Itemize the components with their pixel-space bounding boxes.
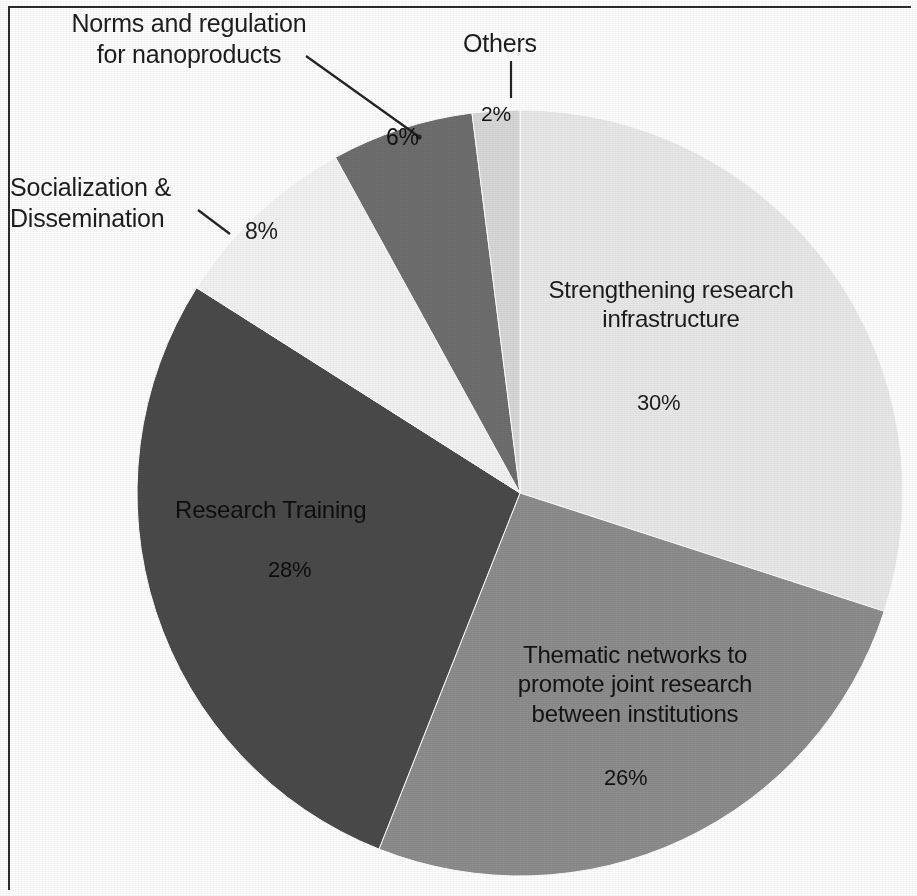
leader-line-socialization: [196, 206, 244, 242]
callout-label-norms-line1: Norms and regulation: [24, 8, 354, 39]
slice-percent-norms-and-regulation: 6%: [386, 123, 419, 151]
callout-label-social-line1: Socialization &: [10, 172, 240, 203]
slice-percent-others: 2%: [481, 101, 511, 127]
slice-percent-thematic-networks: 26%: [604, 765, 647, 792]
pie-chart-figure: Norms and regulation for nanoproducts Ot…: [0, 0, 917, 896]
slice-label-strengthening-line1: Strengthening research: [521, 275, 821, 304]
callout-label-others: Others: [463, 28, 537, 59]
slice-percent-strengthening-research-infrastructure: 30%: [637, 390, 680, 417]
slice-label-strengthening-research-infrastructure: Strengthening research infrastructure: [521, 275, 821, 334]
slice-percent-socialization-dissemination: 8%: [245, 217, 278, 245]
slice-label-strengthening-line2: infrastructure: [521, 304, 821, 333]
slice-label-thematic-networks: Thematic networks to promote joint resea…: [470, 640, 800, 728]
slice-label-thematic-line2: promote joint research: [470, 669, 800, 698]
slice-percent-research-training: 28%: [268, 557, 311, 584]
leader-line-norms: [300, 52, 440, 142]
slice-label-research-training: Research Training: [175, 495, 366, 524]
leader-line-others: [504, 60, 518, 102]
callout-label-others-text: Others: [463, 29, 537, 57]
slice-label-thematic-line1: Thematic networks to: [470, 640, 800, 669]
frame-border-left: [8, 6, 10, 890]
slice-label-thematic-line3: between institutions: [470, 699, 800, 728]
